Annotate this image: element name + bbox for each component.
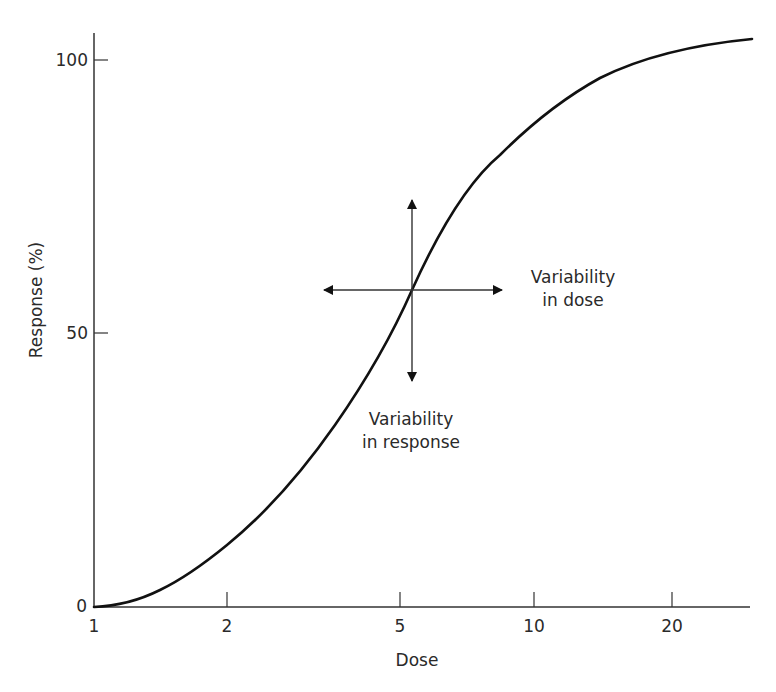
y-axis-title: Response (%) — [26, 242, 46, 358]
x-axis-title: Dose — [396, 650, 439, 670]
x-tick-label-10: 10 — [523, 616, 545, 636]
x-tick-label-1: 1 — [89, 616, 100, 636]
x-tick-label-20: 20 — [661, 616, 683, 636]
x-tick-label-2: 2 — [222, 616, 233, 636]
y-tick-label-0: 0 — [76, 596, 87, 616]
y-tick-label-50: 50 — [66, 323, 88, 343]
dose-response-chart: 100 50 0 1 2 5 10 20 Dose Response (%) V… — [0, 0, 776, 692]
x-tick-label-5: 5 — [395, 616, 406, 636]
y-tick-label-100: 100 — [56, 50, 88, 70]
annotation-dose-line1: Variability — [531, 267, 616, 287]
annotation-response-line2: in response — [362, 432, 460, 452]
dose-response-curve — [94, 39, 752, 607]
annotation-dose-line2: in dose — [542, 290, 603, 310]
annotation-response-line1: Variability — [369, 409, 454, 429]
